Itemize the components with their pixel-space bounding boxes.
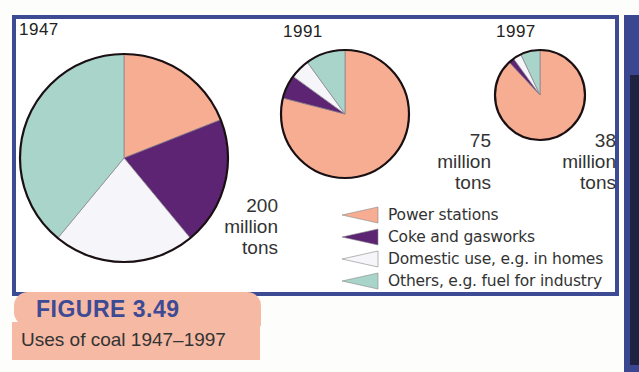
figure-caption: Uses of coal 1947–1997 xyxy=(12,322,260,360)
legend: Power stations Coke and gasworks Domesti… xyxy=(340,204,603,292)
pie-total-1991: 75 million tons xyxy=(437,130,491,193)
pie-year-1947: 1947 xyxy=(19,20,59,40)
legend-swatch-power-icon xyxy=(340,205,380,225)
legend-item-power: Power stations xyxy=(340,204,603,226)
pie-1997 xyxy=(495,50,585,140)
pie-total-1947: 200 million tons xyxy=(224,195,278,258)
pie-year-1991: 1991 xyxy=(283,22,323,42)
figure-number-badge: FIGURE 3.49 xyxy=(14,292,261,326)
legend-swatch-domestic-icon xyxy=(340,249,380,269)
legend-item-others: Others, e.g. fuel for industry xyxy=(340,270,603,292)
pie-total-1997: 38 million tons xyxy=(562,130,616,193)
legend-item-coke: Coke and gasworks xyxy=(340,226,603,248)
pie-year-1997: 1997 xyxy=(496,22,536,42)
pie-1991 xyxy=(281,50,409,178)
pie-1947 xyxy=(20,54,228,262)
legend-swatch-coke-icon xyxy=(340,227,380,247)
legend-swatch-others-icon xyxy=(340,271,380,291)
legend-item-domestic: Domestic use, e.g. in homes xyxy=(340,248,603,270)
